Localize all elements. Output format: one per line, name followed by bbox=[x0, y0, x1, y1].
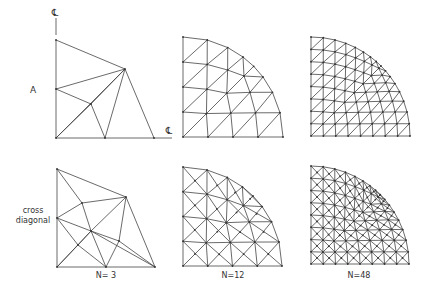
centerline-symbol-horizontal: ℄ bbox=[165, 125, 173, 136]
row-label-A: A bbox=[30, 85, 37, 95]
labels-layer: A cross diagonal N= 3 N=12 N=48 ℄ ℄ bbox=[16, 7, 371, 280]
mesh-panel-CD-N48 bbox=[310, 165, 410, 265]
mesh-panel-CD-N3 bbox=[56, 168, 156, 268]
meshes-layer bbox=[55, 18, 411, 268]
mesh-panel-CD-N12 bbox=[182, 166, 283, 267]
row-label-diagonal: diagonal bbox=[16, 216, 50, 225]
centerline-symbol-vertical: ℄ bbox=[51, 7, 59, 18]
mesh-panel-A-N3 bbox=[55, 39, 155, 139]
finite-element-mesh-figure: A cross diagonal N= 3 N=12 N=48 ℄ ℄ bbox=[0, 0, 434, 295]
mesh-panel-A-N48 bbox=[310, 36, 411, 137]
column-label-n12: N=12 bbox=[222, 271, 245, 280]
column-label-n3: N= 3 bbox=[96, 271, 116, 280]
column-label-n48: N=48 bbox=[348, 271, 371, 280]
row-label-cross: cross bbox=[23, 206, 44, 215]
mesh-panel-A-N12 bbox=[182, 36, 284, 138]
